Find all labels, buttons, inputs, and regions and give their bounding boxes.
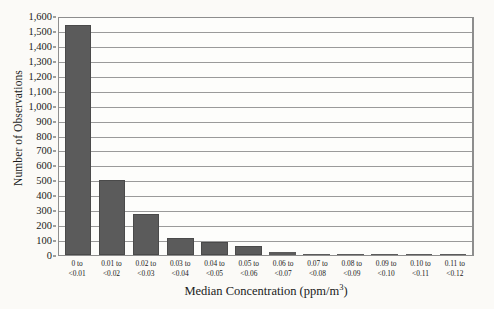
x-axis-tick-labels: 0 to<0.010.01 to<0.020.02 to<0.030.03 to… [58,259,474,278]
x-axis-tick-label: 0.05 to<0.06 [232,259,266,278]
y-axis-tick-mark [53,91,56,92]
y-axis-tick-label: 1,200 [28,72,52,83]
y-axis-tick-mark [53,196,56,197]
bar-slot [61,18,95,255]
x-axis-tick-label: 0 to<0.01 [60,259,94,278]
plot-area [58,17,474,256]
y-axis-tick-label: 1,500 [28,27,52,38]
bar [406,254,433,255]
y-axis-tick-mark [53,136,56,137]
bar [133,214,160,255]
y-axis-tick-label: 0 [47,251,52,262]
bar-series [59,18,472,255]
y-axis-tick-mark [53,166,56,167]
bar [99,180,126,255]
bar-slot [402,18,436,255]
x-axis-tick-label: 0.11 to<0.12 [438,259,472,278]
bar-slot [231,18,265,255]
y-axis-tick-labels: 1,6001,5001,4001,3001,2001,1001,00090080… [18,17,56,256]
x-axis-title: Median Concentration (ppm/m3) [58,282,474,299]
y-axis-tick-label: 200 [36,221,52,232]
bar-slot [368,18,402,255]
bar [235,246,262,255]
x-axis-tick-label: 0.01 to<0.02 [94,259,128,278]
y-axis-tick-mark [53,256,56,257]
y-axis-tick-mark [53,121,56,122]
y-axis-tick-label: 1,600 [28,12,52,23]
y-axis-tick-mark [53,181,56,182]
x-axis-tick-label: 0.08 to<0.09 [335,259,369,278]
bar [269,252,296,255]
y-axis-tick-label: 400 [36,191,52,202]
y-axis-tick-label: 300 [36,206,52,217]
x-axis-tick-label: 0.02 to<0.03 [129,259,163,278]
bar [167,238,194,255]
y-axis-tick-mark [53,17,56,18]
y-axis-tick-label: 700 [36,146,52,157]
y-axis-tick-label: 1,300 [28,57,52,68]
x-axis-tick-label: 0.04 to<0.05 [197,259,231,278]
bar-slot [197,18,231,255]
histogram-figure: Number of Observations 1,6001,5001,4001,… [0,0,494,309]
bar [303,254,330,255]
bar-slot [436,18,470,255]
bar [201,242,228,255]
y-axis-tick-mark [53,61,56,62]
x-axis-tick-label: 0.10 to<0.11 [403,259,437,278]
x-axis-tick-label: 0.06 to<0.07 [266,259,300,278]
y-axis-tick-label: 900 [36,116,52,127]
y-axis-tick-label: 800 [36,131,52,142]
y-axis-tick-label: 600 [36,161,52,172]
bar [337,254,364,255]
y-axis-tick-mark [53,106,56,107]
x-axis-tick-label: 0.09 to<0.10 [369,259,403,278]
bar-slot [334,18,368,255]
y-axis-tick-label: 500 [36,176,52,187]
y-axis-tick-mark [53,151,56,152]
y-axis-tick-label: 1,000 [28,101,52,112]
y-axis-tick-mark [53,211,56,212]
x-axis-tick-label: 0.03 to<0.04 [163,259,197,278]
y-axis-tick-mark [53,76,56,77]
bar-slot [129,18,163,255]
y-axis-tick-mark [53,226,56,227]
bar [65,25,92,255]
y-axis-tick-label: 1,400 [28,42,52,53]
bar-slot [300,18,334,255]
y-axis-tick-mark [53,241,56,242]
bar-slot [163,18,197,255]
bar [440,254,467,255]
bar-slot [95,18,129,255]
x-axis-title-tail: ) [343,284,347,298]
y-axis-tick-mark [53,46,56,47]
bar-slot [265,18,299,255]
x-axis-title-main: Median Concentration (ppm/m [184,284,339,298]
x-axis-tick-label: 0.07 to<0.08 [300,259,334,278]
bar [371,254,398,255]
y-axis-tick-mark [53,31,56,32]
y-axis-tick-label: 100 [36,236,52,247]
y-axis-tick-label: 1,100 [28,86,52,97]
